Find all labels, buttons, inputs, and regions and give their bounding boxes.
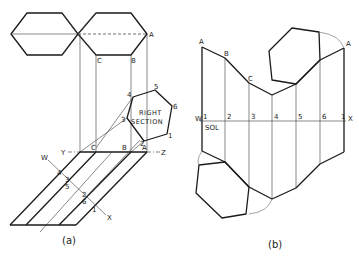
label-Y: Y [60, 149, 66, 157]
label-X-b: X [348, 115, 353, 123]
development: A B C A [196, 28, 351, 218]
right-section-label-1: RIGHT [139, 109, 162, 117]
caption-a: (a) [62, 235, 76, 246]
label-B: B [224, 50, 229, 58]
stretch-out-line: W X SOL 1 2 3 4 5 6 1 [195, 113, 353, 132]
vertex-1: 1 [168, 132, 172, 140]
label-A-top: A [149, 31, 154, 39]
top-view: A C B [11, 13, 154, 65]
label-X-a: X [107, 214, 112, 222]
station-6: 6 [322, 113, 327, 121]
station-2: 2 [227, 113, 231, 121]
label-SOL: SOL [205, 124, 219, 132]
right-section-label-2: SECTION [131, 118, 163, 126]
folding-line-yz: Y Z C B A [60, 144, 166, 157]
station-3: 3 [251, 113, 255, 121]
cut-1: 1 [92, 206, 96, 214]
label-W-b: W [195, 115, 202, 123]
label-A-left: A [199, 38, 204, 46]
station-1-end: 1 [341, 113, 345, 121]
right-section: RIGHT SECTION 4 5 6 3 1 2 [80, 83, 178, 152]
station-5: 5 [298, 113, 302, 121]
vertex-3: 3 [121, 116, 125, 124]
label-C-top: C [97, 57, 102, 65]
label-Z: Z [161, 149, 166, 157]
vertex-5: 5 [154, 83, 158, 91]
cut-4: 4 [57, 169, 62, 177]
vertex-6: 6 [173, 103, 178, 111]
station-1: 1 [203, 113, 207, 121]
label-C-fold: C [91, 144, 96, 152]
label-A-right: A [346, 40, 351, 48]
label-C: C [248, 75, 253, 83]
station-4: 4 [274, 113, 279, 121]
vertex-4: 4 [127, 91, 132, 99]
label-B-fold: B [122, 144, 127, 152]
cut-5: 5 [65, 183, 69, 191]
label-W-a: W [41, 154, 48, 162]
cut-6: 6 [82, 198, 87, 206]
drawing-canvas: A C B RIGHT SECTION 4 5 6 3 1 2 [0, 0, 359, 262]
figure-a: A C B RIGHT SECTION 4 5 6 3 1 2 [10, 13, 178, 246]
oblique-prism [10, 140, 147, 232]
label-B-top: B [131, 57, 136, 65]
projection-lines [80, 34, 147, 152]
figure-b: A B C A W X SOL 1 2 3 4 5 6 1 (b) [195, 28, 353, 250]
caption-b: (b) [268, 239, 282, 250]
label-A-fold: A [142, 144, 147, 152]
